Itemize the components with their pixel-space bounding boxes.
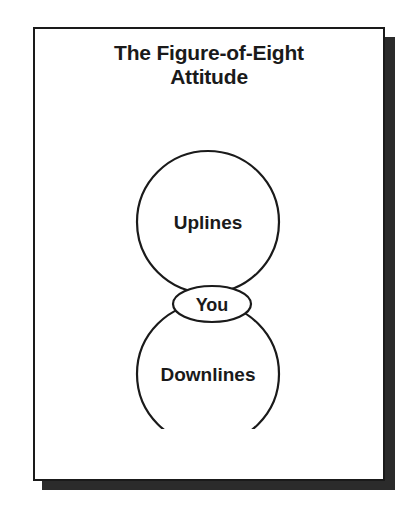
you-label: You bbox=[196, 295, 229, 315]
page-shadow-bottom bbox=[42, 481, 395, 490]
figure-of-eight-diagram: Uplines You Downlines bbox=[35, 99, 387, 429]
diagram-page: The Figure-of-Eight Attitude Uplines You… bbox=[0, 0, 419, 527]
downlines-label: Downlines bbox=[160, 364, 255, 385]
page-sheet: The Figure-of-Eight Attitude Uplines You… bbox=[33, 27, 385, 481]
page-title: The Figure-of-Eight Attitude bbox=[35, 41, 383, 88]
uplines-label: Uplines bbox=[174, 212, 243, 233]
